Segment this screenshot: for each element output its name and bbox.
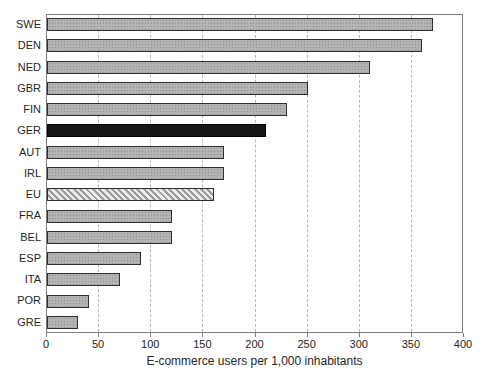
y-axis-label-aut: AUT [0,142,41,163]
bar-ned [47,61,370,74]
bar-fra [47,210,172,223]
bar-por [47,295,89,308]
y-axis-label-ned: NED [0,57,41,78]
bar-gre [47,316,78,329]
bar-gbr [47,82,308,95]
gridline [411,15,412,332]
y-axis-label-swe: SWE [0,14,41,35]
y-axis-label-eu: EU [0,184,41,205]
y-axis-label-fin: FIN [0,99,41,120]
y-axis-label-ita: ITA [0,269,41,290]
x-axis-tick-mark [463,333,464,337]
plot-area [46,14,463,333]
bar-swe [47,18,433,31]
x-axis-tick-mark [359,333,360,337]
x-axis-tick-mark [411,333,412,337]
y-axis-label-fra: FRA [0,205,41,226]
y-axis-label-esp: ESP [0,248,41,269]
bar-ita [47,273,120,286]
x-axis-tick-mark [46,333,47,337]
bar-eu [47,188,214,201]
x-axis-tick-mark [150,333,151,337]
y-axis-label-den: DEN [0,35,41,56]
bar-ger [47,124,266,137]
y-axis-label-gbr: GBR [0,78,41,99]
y-axis-label-irl: IRL [0,163,41,184]
bar-esp [47,252,141,265]
x-axis-tick-mark [98,333,99,337]
y-axis-label-ger: GER [0,120,41,141]
x-axis-tick-mark [307,333,308,337]
x-axis-tick-label: 150 [180,338,224,350]
y-axis-label-bel: BEL [0,227,41,248]
x-axis-tick-label: 350 [389,338,433,350]
x-axis-tick-mark [202,333,203,337]
bar-aut [47,146,224,159]
x-axis-tick-label: 250 [285,338,329,350]
bar-fin [47,103,287,116]
x-axis-tick-label: 400 [441,338,483,350]
y-axis-label-gre: GRE [0,312,41,333]
x-axis-tick-mark [255,333,256,337]
x-axis-tick-label: 0 [24,338,68,350]
x-axis-tick-label: 100 [128,338,172,350]
x-axis-tick-label: 200 [233,338,277,350]
x-axis-tick-label: 50 [76,338,120,350]
y-axis-label-por: POR [0,290,41,311]
x-axis-tick-label: 300 [337,338,381,350]
chart-container: SWEDENNEDGBRFINGERAUTIRLEUFRABELESPITAPO… [0,0,483,381]
bar-bel [47,231,172,244]
bar-irl [47,167,224,180]
x-axis-title: E-commerce users per 1,000 inhabitants [46,354,463,368]
bar-den [47,39,422,52]
